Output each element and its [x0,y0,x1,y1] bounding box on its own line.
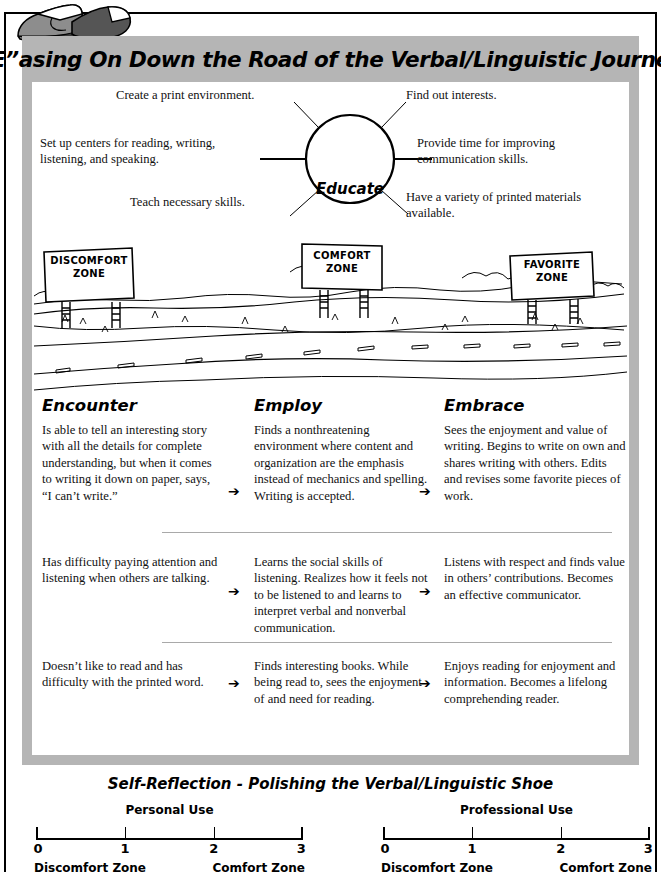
cell-embrace: Enjoys reading for enjoyment and informa… [444,658,626,707]
cell-embrace: Listens with respect and finds value in … [444,554,626,603]
row-arrow-icon: ➔ [228,676,240,690]
sign-comfort-line2: ZONE [302,262,382,275]
page-frame-left-rule [4,12,6,872]
scale-professional-use[interactable]: Professional Use 0 1 2 3 Discomfort Zone… [383,803,650,872]
spoke-text-middle-right: Provide time for improving communication… [417,136,617,167]
sign-discomfort-line1: DISCOMFORT [44,254,134,267]
page-frame-right-rule [655,12,657,872]
cell-encounter: Is able to tell an interesting story wit… [42,422,220,504]
cell-employ: Learns the social skills of listening. R… [254,554,432,636]
row-arrow-icon: ➔ [419,676,431,690]
row-arrow-icon: ➔ [228,484,240,498]
row-divider [162,532,612,533]
scale-personal-use[interactable]: Personal Use 0 1 2 3 Discomfort Zone Com… [36,803,303,872]
educate-web-diagram: Educate Create a print environment. Set … [32,82,629,242]
sign-favorite-line1: FAVORITE [511,258,593,271]
axis-line [383,838,650,840]
scale-tick-label-2: 2 [556,841,565,856]
spoke-text-middle-left: Set up centers for reading, writing, lis… [40,136,255,167]
column-header-embrace: Embrace [444,396,525,415]
scale-tick-label-3: 3 [644,841,653,856]
row-arrow-icon: ➔ [228,584,240,598]
scale-tick-label-3: 3 [297,841,306,856]
sign-discomfort-zone: DISCOMFORT ZONE [44,254,134,280]
scale-tick-label-0: 0 [33,841,42,856]
sign-comfort-line1: COMFORT [302,249,382,262]
spoke-text-top-left: Create a print environment. [116,88,316,104]
column-header-employ: Employ [254,396,322,415]
cell-encounter: Has difficulty paying attention and list… [42,554,220,587]
axis-line [36,838,303,840]
scale-tick-1[interactable] [472,827,474,839]
cell-embrace: Sees the enjoyment and value of writing.… [444,422,626,504]
scale-tick-label-1: 1 [120,841,129,856]
scale-tick-3[interactable] [301,827,303,839]
scale-tick-0[interactable] [383,827,385,839]
poster-panel: “E”asing On Down the Road of the Verbal/… [22,36,639,765]
scale-axis[interactable] [36,827,303,839]
scale-low-label: Discomfort Zone [381,861,493,872]
scale-axis[interactable] [383,827,650,839]
scale-tick-label-2: 2 [209,841,218,856]
self-reflection-section: Self-Reflection - Polishing the Verbal/L… [0,775,661,872]
worksheet-page: “E”asing On Down the Road of the Verbal/… [0,0,661,872]
row-arrow-icon: ➔ [419,484,431,498]
poster-title-bar: “E”asing On Down the Road of the Verbal/… [22,36,639,82]
scale-tick-label-1: 1 [467,841,476,856]
content-sheet: Educate Create a print environment. Set … [32,82,629,755]
cell-encounter: Doesn’t like to read and has difficulty … [42,658,220,691]
sign-favorite-line2: ZONE [511,271,593,284]
sign-comfort-zone: COMFORT ZONE [302,249,382,275]
scale-label-personal: Personal Use [36,803,303,817]
road-illustration: DISCOMFORT ZONE COMFORT ZONE FAVORITE ZO… [32,242,629,394]
scale-tick-2[interactable] [561,827,563,839]
scale-low-label: Discomfort Zone [34,861,146,872]
column-header-encounter: Encounter [42,396,137,415]
cell-employ: Finds interesting books. While being rea… [254,658,432,707]
scale-tick-label-0: 0 [380,841,389,856]
cell-employ: Finds a nonthreatening environment where… [254,422,432,504]
scale-high-label: Comfort Zone [213,861,305,872]
spoke-text-bottom-right: Have a variety of printed materials avai… [406,190,601,221]
spoke-text-top-right: Find out interests. [406,88,596,104]
row-arrow-icon: ➔ [419,584,431,598]
sign-favorite-zone: FAVORITE ZONE [511,258,593,284]
spoke-text-bottom-left: Teach necessary skills. [130,195,320,211]
row-divider [162,642,612,643]
scale-tick-1[interactable] [125,827,127,839]
scale-tick-0[interactable] [36,827,38,839]
self-reflection-title: Self-Reflection - Polishing the Verbal/L… [0,775,661,793]
page-title: “E”asing On Down the Road of the Verbal/… [0,47,661,72]
scale-tick-2[interactable] [214,827,216,839]
scale-label-professional: Professional Use [383,803,650,817]
scale-tick-3[interactable] [648,827,650,839]
sign-discomfort-line2: ZONE [44,267,134,280]
scale-high-label: Comfort Zone [560,861,652,872]
